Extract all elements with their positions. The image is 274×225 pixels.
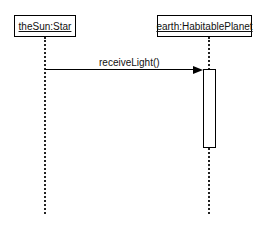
activation-bar-earth <box>203 69 216 148</box>
object-box-earth: earth:HabitablePlanet <box>157 15 252 37</box>
object-label-sun: theSun:Star <box>19 21 72 32</box>
object-box-sun: theSun:Star <box>14 15 76 37</box>
object-label-earth: earth:HabitablePlanet <box>156 21 252 32</box>
arrowhead-icon <box>193 66 203 74</box>
message-label: receiveLight() <box>99 57 160 68</box>
message-arrow-line <box>45 69 195 70</box>
lifeline-sun <box>44 37 46 214</box>
